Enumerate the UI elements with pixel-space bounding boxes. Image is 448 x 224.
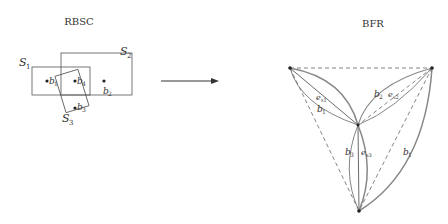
rbsc-title: RBSC — [64, 16, 94, 27]
svg-text:4: 4 — [82, 80, 86, 87]
vertex-bottom — [357, 209, 361, 213]
edge-label-es3: e s3 — [361, 148, 372, 158]
vertex-top-left — [288, 66, 292, 70]
curved-edges — [290, 68, 432, 211]
svg-text:3: 3 — [350, 151, 354, 158]
vertex-center — [357, 124, 360, 127]
svg-text:1: 1 — [26, 63, 30, 71]
svg-text:s3: s3 — [366, 152, 372, 158]
svg-text:2: 2 — [379, 93, 383, 100]
edge-label-b1-right: b 1 — [403, 147, 412, 158]
svg-text:3: 3 — [82, 106, 86, 113]
svg-text:s2: s2 — [393, 94, 399, 100]
bfr-title: BFR — [362, 18, 384, 29]
set-label-s2: S 2 — [120, 45, 131, 60]
point-label-b1: b 1 — [49, 76, 58, 87]
transform-arrow — [161, 78, 219, 84]
svg-text:s1: s1 — [321, 97, 327, 103]
edge-label-b3: b 3 — [345, 147, 354, 158]
point-label-b2: b 2 — [103, 86, 112, 97]
edge-label-es2: e s2 — [388, 90, 399, 100]
set-label-s3: S 3 — [62, 112, 73, 127]
svg-text:1: 1 — [54, 80, 58, 87]
point-label-b4: b 4 — [77, 76, 86, 87]
point-label-b3: b 3 — [77, 102, 86, 113]
vertex-top-right — [430, 66, 434, 70]
svg-text:1: 1 — [408, 151, 412, 158]
svg-text:2: 2 — [127, 52, 131, 60]
set-s2-rect — [61, 53, 132, 95]
edge-label-b1-left: b 1 — [317, 104, 326, 115]
svg-text:2: 2 — [108, 90, 112, 97]
diagram-canvas: RBSC S 1 S 2 S 3 b 1 b 4 b 2 b 3 BFR — [0, 0, 448, 224]
point-b2 — [102, 79, 105, 82]
svg-text:3: 3 — [69, 119, 73, 127]
svg-text:1: 1 — [322, 108, 326, 115]
set-label-s1: S 1 — [19, 56, 30, 71]
